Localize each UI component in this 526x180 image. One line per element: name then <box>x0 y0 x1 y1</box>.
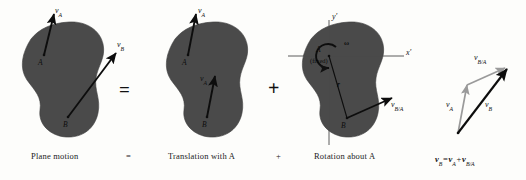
point-label-b-panel3: B <box>341 121 346 130</box>
point-label-a-panel2: A <box>182 58 187 67</box>
label-omega: ω <box>344 39 349 47</box>
operator-equals-big: = <box>119 79 130 101</box>
point-label-b-panel2: B <box>202 120 207 129</box>
figure-root: vA A vB B = vA A vA B + y′ x′ A (fixed) … <box>0 0 526 180</box>
axis-label-y-prime: y′ <box>332 12 337 21</box>
caption-plane-motion: Plane motion <box>31 151 79 161</box>
label-vba-triangle: vB/A <box>474 53 486 64</box>
axis-label-x-prime: x′ <box>406 48 411 57</box>
point-label-b-panel1: B <box>63 120 68 129</box>
equation-vb-va-vba: vB = vA + vB/A <box>435 154 475 166</box>
panel-rotation-shape <box>302 22 383 137</box>
label-va-at-b-panel2: vA <box>200 74 207 85</box>
caption-operator-plus: + <box>276 151 281 161</box>
operator-plus-big: + <box>268 77 279 100</box>
label-vb-triangle: vB <box>485 100 492 111</box>
label-vb-panel1: vB <box>117 40 124 51</box>
caption-translation: Translation with A <box>168 151 235 161</box>
triangle-vector-vba <box>467 68 505 85</box>
label-vba-panel3: vB/A <box>391 100 403 111</box>
point-a-fixed-note: (fixed) <box>310 57 328 64</box>
label-va-triangle: vA <box>446 100 453 111</box>
label-va-panel1: vA <box>55 6 62 17</box>
caption-operator-equals: = <box>126 151 131 161</box>
point-label-a-panel3: A <box>316 45 321 54</box>
label-radius-r: r <box>337 80 340 89</box>
label-va-at-a-panel2: vA <box>198 6 205 17</box>
caption-rotation: Rotation about A <box>314 151 375 161</box>
point-label-a-panel1: A <box>38 58 43 67</box>
